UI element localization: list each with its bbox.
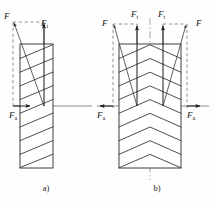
panel-b-gear-body	[119, 44, 181, 168]
panel-a-label-resultant-force: F	[3, 11, 10, 21]
gear-force-diagram: F Ft Fa a)	[0, 0, 215, 203]
panel-a-label-axial-force: Fa	[8, 110, 18, 121]
panel-b-label-axial-force-right: Fa	[186, 110, 196, 121]
panel-a-label-tangential-force: Ft	[40, 18, 49, 29]
figure-container: F Ft Fa a)	[0, 0, 215, 203]
panel-b-label-tangential-force-right: Ft	[157, 9, 166, 20]
panel-b-label-resultant-force-left: F	[101, 18, 108, 28]
panel-b: F Ft Ft F Fa Fa b)	[96, 9, 209, 193]
panel-a: F Ft Fa a)	[3, 11, 92, 193]
panel-a-caption: a)	[43, 183, 50, 193]
panel-b-caption: b)	[153, 183, 160, 193]
panel-b-label-resultant-force-right: F	[195, 18, 202, 28]
panel-b-label-axial-force-left: Fa	[96, 110, 106, 121]
panel-b-label-tangential-force-left: Ft	[130, 9, 139, 20]
